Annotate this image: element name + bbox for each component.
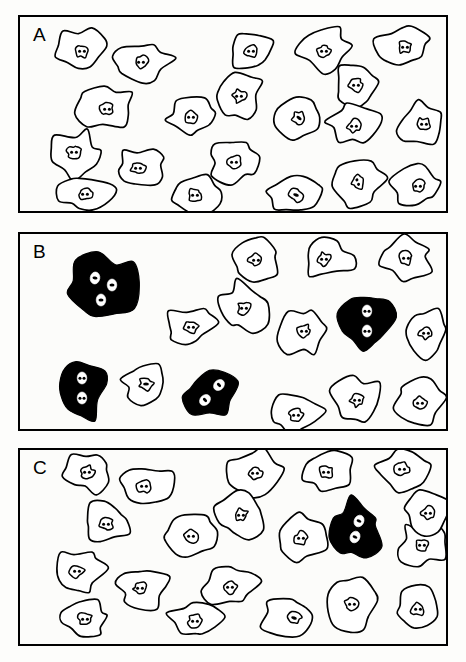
cell-nucleus	[96, 294, 106, 306]
panel-c: C	[18, 448, 448, 646]
mononuclear-cell	[201, 567, 261, 605]
cell-nucleus	[77, 392, 87, 404]
mononuclear-cell	[379, 234, 432, 282]
multinucleated-giant-cell	[67, 252, 139, 317]
mononuclear-cell	[233, 34, 274, 69]
cell-morphology-figure: A B C	[0, 0, 466, 662]
mononuclear-cell	[232, 237, 278, 283]
cell-nucleus	[107, 279, 117, 291]
mononuclear-cell	[211, 142, 260, 185]
mononuclear-cell	[308, 237, 356, 277]
multinucleated-giant-cell	[329, 495, 382, 558]
mononuclear-cell	[165, 97, 215, 135]
mononuclear-cell	[120, 469, 175, 504]
cell-nucleus	[362, 325, 372, 337]
mononuclear-cell	[112, 44, 175, 83]
multinucleated-giant-cell	[182, 370, 238, 415]
mononuclear-cell	[56, 178, 116, 210]
mononuclear-cell	[119, 149, 164, 185]
cell-nucleus	[75, 46, 88, 58]
multinucleated-giant-cell	[337, 297, 397, 351]
mononuclear-cell	[51, 129, 101, 181]
cell-nucleus	[99, 102, 112, 114]
cell-nucleus	[417, 118, 430, 130]
cell-nucleus	[77, 372, 87, 384]
mononuclear-cell	[332, 160, 388, 208]
mononuclear-cell	[338, 65, 379, 108]
mononuclear-cell	[279, 512, 328, 562]
panel-b-cell-layer	[20, 234, 446, 429]
mononuclear-cell	[393, 377, 446, 426]
multinucleated-giant-cell	[60, 362, 108, 422]
mononuclear-cell	[389, 163, 441, 205]
mononuclear-cell	[374, 450, 431, 493]
mononuclear-cell	[274, 97, 320, 140]
panel-c-cell-layer	[20, 450, 446, 644]
mononuclear-cell	[266, 175, 322, 210]
mononuclear-cell	[62, 454, 109, 495]
cell-nucleus	[362, 305, 372, 317]
mononuclear-cell	[277, 310, 327, 355]
mononuclear-cell	[60, 599, 107, 637]
mononuclear-cell	[115, 571, 170, 611]
mononuclear-cell	[302, 450, 353, 491]
cell-nucleus	[413, 179, 425, 192]
cell-nucleus	[78, 613, 92, 625]
mononuclear-cell	[172, 174, 222, 213]
mononuclear-cell	[396, 100, 441, 145]
panel-b: B	[18, 232, 448, 431]
mononuclear-cell	[120, 363, 163, 405]
mononuclear-cell	[329, 375, 380, 422]
mononuclear-cell	[373, 26, 430, 65]
mononuclear-cell	[164, 514, 218, 557]
mononuclear-cell	[217, 72, 263, 119]
mononuclear-cell	[397, 585, 438, 628]
mononuclear-cell	[325, 103, 383, 143]
cell-nucleus	[66, 146, 81, 158]
mononuclear-cell	[166, 602, 225, 634]
mononuclear-cell	[406, 308, 446, 360]
mononuclear-cell	[87, 500, 130, 541]
cell-nucleus	[130, 163, 146, 173]
cell-nucleus	[319, 466, 332, 478]
panel-a-cell-layer	[20, 17, 446, 211]
cell-nucleus	[399, 251, 412, 266]
mononuclear-cell	[271, 394, 326, 431]
mononuclear-cell	[260, 599, 312, 637]
mononuclear-cell	[327, 577, 378, 633]
mononuclear-cell	[167, 308, 218, 344]
panel-a: A	[18, 15, 448, 213]
cell-nucleus	[399, 41, 411, 53]
mononuclear-cell	[55, 28, 107, 69]
mononuclear-cell	[57, 552, 109, 593]
mononuclear-cell	[218, 278, 270, 333]
mononuclear-cell	[75, 86, 133, 127]
